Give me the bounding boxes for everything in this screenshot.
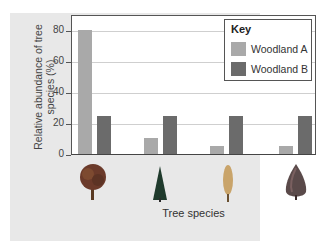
y-tick-label-0: 0 <box>42 148 64 159</box>
conifer-tree-icon <box>152 166 168 202</box>
bar-woodland-b-species-2 <box>163 116 177 154</box>
bushy-conifer-tree-icon <box>284 164 308 200</box>
legend-title: Key <box>231 23 251 35</box>
legend-label-woodland-a: Woodland A <box>251 43 307 55</box>
legend-label-woodland-b: Woodland B <box>251 63 308 75</box>
bar-woodland-b-species-1 <box>97 116 111 154</box>
legend: Key Woodland A Woodland B <box>224 19 312 81</box>
broadleaf-tree-icon <box>78 162 108 202</box>
y-tick <box>66 155 71 156</box>
bar-woodland-b-species-4 <box>298 116 312 154</box>
bar-woodland-a-species-1 <box>78 30 92 154</box>
bar-woodland-b-species-3 <box>229 116 243 154</box>
gridline-40 <box>72 93 315 94</box>
bar-woodland-a-species-3 <box>210 146 224 154</box>
bar-woodland-a-species-4 <box>279 146 293 154</box>
legend-swatch-woodland-a <box>231 42 246 56</box>
poplar-tree-icon <box>221 164 235 202</box>
x-axis-title: Tree species <box>71 207 316 219</box>
y-tick-label-20: 20 <box>42 117 64 128</box>
bar-woodland-a-species-2 <box>144 138 158 154</box>
y-tick-label-40: 40 <box>42 86 64 97</box>
legend-swatch-woodland-b <box>231 62 246 76</box>
y-tick-label-80: 80 <box>42 24 64 35</box>
y-tick-label-60: 60 <box>42 55 64 66</box>
